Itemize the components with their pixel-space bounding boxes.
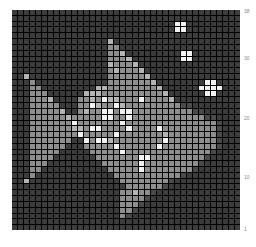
grid-cell [78,190,83,195]
grid-cell [66,16,71,21]
grid-cell [151,202,156,207]
grid-cell [102,126,107,131]
grid-cell [72,126,77,131]
grid-cell [169,196,174,201]
grid-cell [229,126,234,131]
grid-cell [205,109,210,114]
grid-cell [175,33,180,38]
grid-cell [151,219,156,224]
grid-cell [12,33,17,38]
grid-cell [223,68,228,73]
grid-cell [42,214,47,219]
grid-cell [54,68,59,73]
grid-cell [181,51,186,56]
grid-cell [175,155,180,160]
grid-cell [217,97,222,102]
grid-cell [217,91,222,96]
grid-cell [24,167,29,172]
grid-cell [133,115,138,120]
grid-cell [30,150,35,155]
grid-cell [235,74,240,79]
grid-cell [181,144,186,149]
grid-cell [102,208,107,213]
grid-cell [60,150,65,155]
grid-cell [211,10,216,15]
grid-cell [217,51,222,56]
grid-cell [66,45,71,50]
grid-cell [205,103,210,108]
grid-cell [108,150,113,155]
grid-cell [235,155,240,160]
grid-cell [18,155,23,160]
grid-cell [157,144,162,149]
grid-cell [193,57,198,62]
grid-cell [187,57,192,62]
grid-cell [60,68,65,73]
grid-cell [114,10,119,15]
grid-cell [24,109,29,114]
grid-cell [30,179,35,184]
grid-cell [205,138,210,143]
grid-cell [169,27,174,32]
grid-cell [120,22,125,27]
grid-cell [145,10,150,15]
grid-cell [217,219,222,224]
grid-cell [163,144,168,149]
grid-cell [211,62,216,67]
grid-cell [48,115,53,120]
grid-cell [84,80,89,85]
grid-cell [217,214,222,219]
grid-cell [169,115,174,120]
grid-cell [205,51,210,56]
grid-cell [211,225,216,230]
grid-cell [205,179,210,184]
grid-cell [102,138,107,143]
grid-cell [169,184,174,189]
grid-cell [78,179,83,184]
grid-cell [151,190,156,195]
grid-cell [235,97,240,102]
grid-cell [12,202,17,207]
grid-cell [36,219,41,224]
grid-cell [151,121,156,126]
grid-cell [175,57,180,62]
grid-cell [18,132,23,137]
grid-cell [229,150,234,155]
grid-cell [157,68,162,73]
grid-cell [205,22,210,27]
grid-cell [120,184,125,189]
grid-cell [151,138,156,143]
grid-cell [157,74,162,79]
grid-cell [199,10,204,15]
grid-cell [126,33,131,38]
grid-cell [211,219,216,224]
grid-cell [211,121,216,126]
grid-cell [151,39,156,44]
grid-cell [151,109,156,114]
grid-cell [18,97,23,102]
grid-cell [205,62,210,67]
grid-cell [199,109,204,114]
grid-cell [157,225,162,230]
grid-cell [151,16,156,21]
grid-cell [223,10,228,15]
grid-cell [217,86,222,91]
grid-cell [42,155,47,160]
grid-cell [36,68,41,73]
grid-cell [108,214,113,219]
grid-cell [114,132,119,137]
grid-cell [126,62,131,67]
grid-cell [30,144,35,149]
grid-cell [84,103,89,108]
grid-cell [145,150,150,155]
grid-cell [120,150,125,155]
grid-cell [217,132,222,137]
grid-cell [139,138,144,143]
grid-cell [36,132,41,137]
grid-cell [72,150,77,155]
grid-cell [145,126,150,131]
grid-cell [114,68,119,73]
grid-cell [187,155,192,160]
grid-cell [42,121,47,126]
grid-cell [163,121,168,126]
